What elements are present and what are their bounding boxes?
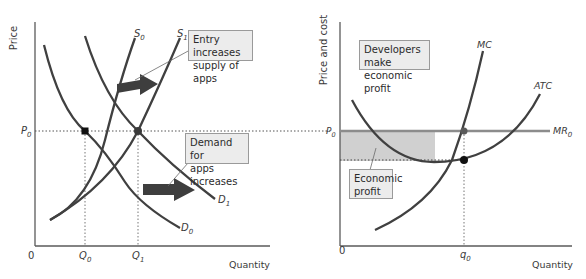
right-p0-label: P0	[326, 126, 336, 139]
developers-profit-note: Developers make economic profit	[359, 40, 430, 70]
mc-label: MC	[477, 39, 492, 50]
left-x-axis-label: Quantity	[229, 259, 270, 270]
right-y-axis-label: Price and cost	[318, 15, 329, 85]
q0-label: Q0	[79, 250, 92, 264]
q1-label: Q1	[132, 250, 144, 264]
equilibrium-point-initial	[82, 128, 89, 135]
note-line: Economic	[354, 172, 388, 185]
right-x-axis-label: Quantity	[532, 259, 573, 270]
equilibrium-point-new	[134, 127, 142, 135]
right-panel: Price and cost Quantity 0 P0 q0 MC ATC M…	[318, 15, 573, 270]
note-line: apps increases	[190, 162, 244, 188]
demand-increase-note: Demand for apps increases	[185, 133, 249, 164]
left-p0-label: P0	[21, 125, 32, 139]
left-y-axis-label: Price	[8, 26, 19, 50]
supply-increase-note: Entry increases supply of apps	[188, 30, 253, 61]
note-line: supply of apps	[193, 59, 248, 85]
mc-mr-intersection-point	[461, 128, 468, 135]
right-origin-label: 0	[339, 245, 345, 256]
note-line: Entry increases	[193, 33, 248, 59]
left-panel: Price Quantity 0 P0 Q0 Q1 S0 S1 D0 D1	[8, 22, 330, 270]
demand-shift-arrow-icon	[143, 178, 195, 201]
supply-curve-s0	[50, 38, 135, 220]
note-line: Demand for	[190, 136, 244, 162]
note-line: economic profit	[364, 69, 425, 95]
d0-label: D0	[181, 222, 194, 236]
s0-label: S0	[134, 28, 145, 42]
atc-label: ATC	[533, 80, 553, 91]
demand-curve-d0	[44, 45, 180, 228]
diagram-canvas: Price Quantity 0 P0 Q0 Q1 S0 S1 D0 D1 Pr…	[0, 0, 586, 279]
economic-profit-note: Economic profit	[349, 169, 393, 199]
note-line: profit	[354, 185, 388, 198]
d1-label: D1	[218, 194, 230, 208]
note-line: Developers make	[364, 43, 425, 69]
atc-point	[460, 156, 468, 164]
left-origin-label: 0	[28, 250, 34, 261]
q0-right-label: q0	[460, 249, 471, 263]
mr0-label: MR0	[553, 125, 573, 139]
